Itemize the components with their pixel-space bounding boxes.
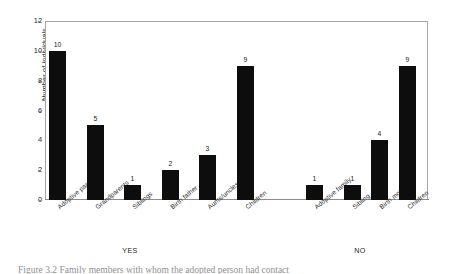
- figure-caption: Figure 3.2 Family members with whom the …: [18, 266, 438, 274]
- figure-container: Number of individuals 024681012 10Adopti…: [0, 0, 452, 274]
- y-tick-mark: [38, 81, 41, 82]
- y-tick-mark: [38, 111, 41, 112]
- y-tick-mark: [38, 21, 41, 22]
- group-label-no: NO: [300, 246, 420, 255]
- y-tick-mark: [38, 170, 41, 171]
- y-tick-mark: [38, 51, 41, 52]
- figure-caption-text: Figure 3.2 Family members with whom the …: [18, 266, 438, 274]
- y-tick-mark: [38, 140, 41, 141]
- plot-area: [45, 21, 428, 200]
- x-axis-line: [45, 199, 429, 200]
- group-label-yes: YES: [60, 246, 200, 255]
- y-axis-ticks: 024681012: [20, 0, 42, 274]
- y-tick-mark: [38, 200, 41, 201]
